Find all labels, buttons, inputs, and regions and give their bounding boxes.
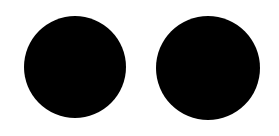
right-circle bbox=[156, 16, 260, 120]
diagram-canvas bbox=[0, 0, 279, 136]
left-circle bbox=[24, 16, 126, 118]
